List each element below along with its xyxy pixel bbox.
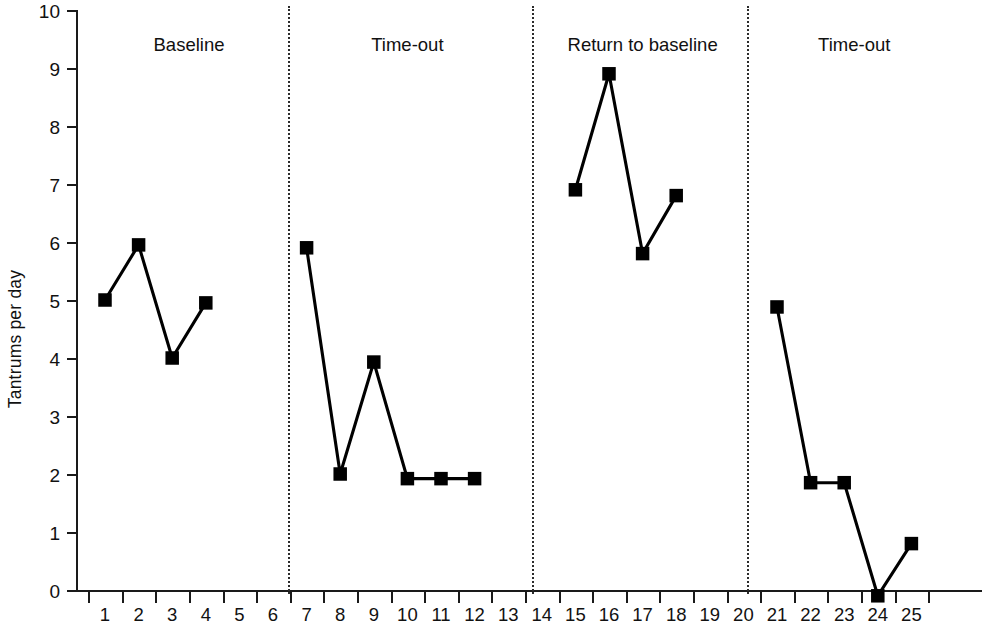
y-tick-mark: 0: [67, 590, 76, 592]
data-point-day-21: [770, 300, 784, 314]
data-point-day-8: [333, 467, 347, 481]
y-tick-mark: 7: [67, 184, 76, 186]
data-line-3: [575, 74, 676, 254]
y-tick-label: 7: [49, 176, 60, 195]
y-tick-mark: 4: [67, 358, 76, 360]
y-tick-label: 4: [49, 350, 60, 369]
data-point-day-25: [905, 537, 919, 551]
y-tick-mark: 3: [67, 416, 76, 418]
data-point-day-1: [98, 293, 112, 307]
data-point-day-15: [569, 183, 583, 197]
y-tick-label: 0: [49, 582, 60, 601]
y-tick-label: 3: [49, 408, 60, 427]
y-tick-mark: 6: [67, 242, 76, 244]
y-axis-label-text: Tantrums per day: [5, 270, 26, 408]
y-tick-mark: 2: [67, 474, 76, 476]
y-tick-label: 1: [49, 524, 60, 543]
data-point-day-22: [804, 476, 818, 490]
y-tick-label: 10: [39, 2, 60, 21]
y-axis-label: Tantrums per day: [0, 0, 30, 634]
y-tick-label: 8: [49, 118, 60, 137]
y-tick-mark: 9: [67, 68, 76, 70]
y-tick-mark: 8: [67, 126, 76, 128]
data-line-2: [307, 248, 475, 479]
data-point-day-9: [367, 355, 381, 369]
y-tick-mark: 1: [67, 532, 76, 534]
data-point-day-23: [837, 476, 851, 490]
data-point-day-2: [132, 238, 146, 252]
tantrums-per-day-chart: Tantrums per day 012345678910 1234567891…: [0, 0, 998, 634]
data-line-4: [777, 307, 911, 596]
y-tick-label: 2: [49, 466, 60, 485]
y-tick-mark: 5: [67, 300, 76, 302]
data-point-day-4: [199, 296, 213, 310]
data-point-day-24: [871, 589, 885, 603]
data-line-1: [105, 245, 206, 358]
data-point-day-3: [165, 351, 179, 365]
y-tick-label: 5: [49, 292, 60, 311]
data-point-day-16: [602, 67, 616, 81]
data-point-day-12: [468, 472, 482, 486]
data-point-day-17: [636, 247, 650, 261]
data-series-layer: [76, 10, 990, 610]
y-tick-label: 6: [49, 234, 60, 253]
data-point-day-11: [434, 472, 448, 486]
y-tick-mark: 10: [67, 10, 76, 12]
data-point-day-7: [300, 241, 314, 255]
y-tick-label: 9: [49, 60, 60, 79]
data-point-day-10: [401, 472, 415, 486]
plot-area: 012345678910 123456789101112131415161718…: [76, 10, 990, 590]
data-point-day-18: [669, 189, 683, 203]
